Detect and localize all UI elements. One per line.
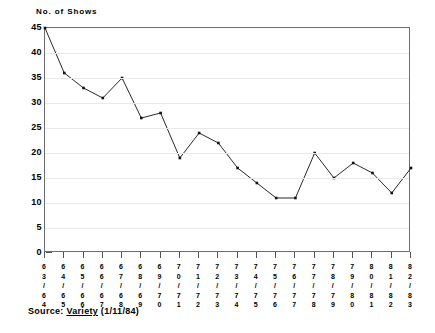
- data-point-marker: [44, 27, 47, 30]
- data-point-marker: [101, 97, 104, 100]
- y-axis-title: No. of Shows: [36, 7, 97, 16]
- data-point-marker: [159, 112, 162, 115]
- x-axis-tick-label: 73/74: [230, 262, 244, 310]
- y-axis-tick-label: 5: [16, 222, 42, 232]
- source-publication: Variety: [66, 306, 98, 316]
- x-axis-tick-label: 74/75: [249, 262, 263, 310]
- x-axis-tick-mark: [102, 252, 103, 258]
- x-axis-tick-label: 77/78: [307, 262, 321, 310]
- x-axis-tick-mark: [63, 252, 64, 258]
- x-axis-tick-label: 79/80: [345, 262, 359, 310]
- x-axis-tick-mark: [121, 252, 122, 258]
- source-note: Source: Variety (1/11/84): [28, 306, 139, 316]
- x-axis-tick-mark: [237, 252, 238, 258]
- data-point-marker: [410, 167, 413, 170]
- data-point-marker: [256, 182, 259, 185]
- y-axis-tick-label: 10: [16, 197, 42, 207]
- x-axis-tick-mark: [294, 252, 295, 258]
- x-axis-tick-label: 82/83: [403, 262, 417, 310]
- x-axis-tick-mark: [44, 252, 45, 258]
- x-axis-tick-mark: [275, 252, 276, 258]
- data-point-marker: [390, 192, 393, 195]
- x-axis-tick-label: 80/81: [364, 262, 378, 310]
- x-axis-tick-mark: [410, 252, 411, 258]
- y-axis-tick-label: 20: [16, 147, 42, 157]
- y-axis-tick-label: 25: [16, 122, 42, 132]
- x-axis-tick-mark: [217, 252, 218, 258]
- x-axis-tick-label: 75/76: [268, 262, 282, 310]
- data-point-marker: [82, 87, 85, 90]
- gridline: [45, 228, 409, 229]
- data-point-marker: [371, 172, 374, 175]
- gridline: [45, 128, 409, 129]
- data-point-marker: [236, 167, 239, 170]
- data-point-marker: [352, 162, 355, 165]
- x-axis-tick-label: 63/64: [37, 262, 51, 310]
- data-point-marker: [217, 142, 220, 145]
- x-axis-tick-mark: [371, 252, 372, 258]
- x-axis-tick-marks: [44, 252, 410, 259]
- x-axis-tick-mark: [83, 252, 84, 258]
- source-prefix: Source:: [28, 306, 64, 316]
- x-axis-tick-label: 66/67: [95, 262, 109, 310]
- x-axis-tick-mark: [256, 252, 257, 258]
- x-axis-tick-label: 76/77: [287, 262, 301, 310]
- x-axis-tick-mark: [160, 252, 161, 258]
- x-axis-tick-mark: [391, 252, 392, 258]
- y-axis-tick-label: 35: [16, 72, 42, 82]
- line-series: [45, 28, 411, 253]
- x-axis-tick-mark: [140, 252, 141, 258]
- x-axis-tick-mark: [352, 252, 353, 258]
- data-point-marker: [179, 157, 182, 160]
- y-axis-tick-label: 15: [16, 172, 42, 182]
- x-axis-tick-label: 70/71: [172, 262, 186, 310]
- source-date: (1/11/84): [101, 306, 139, 316]
- plot-area: [44, 27, 410, 252]
- data-point-marker: [294, 197, 297, 200]
- gridline: [45, 103, 409, 104]
- y-axis-tick-label: 0: [16, 247, 42, 257]
- x-axis-tick-label: 65/66: [76, 262, 90, 310]
- chart-container: No. of Shows 051015202530354045 63/6464/…: [0, 0, 435, 333]
- gridline: [45, 178, 409, 179]
- data-point-marker: [275, 197, 278, 200]
- y-axis-tick-label: 40: [16, 47, 42, 57]
- x-axis-tick-label: 71/72: [191, 262, 205, 310]
- x-axis-tick-label: 69/70: [153, 262, 167, 310]
- x-axis-tick-mark: [179, 252, 180, 258]
- data-point-marker: [198, 132, 201, 135]
- gridline: [45, 203, 409, 204]
- data-point-marker: [140, 117, 143, 120]
- data-point-marker: [63, 72, 66, 75]
- x-axis-tick-mark: [314, 252, 315, 258]
- x-axis-tick-label: 78/79: [326, 262, 340, 310]
- x-axis-tick-label: 68/69: [133, 262, 147, 310]
- x-axis-tick-labels: 63/6464/6565/6666/6767/6868/6969/7070/71…: [44, 262, 410, 304]
- y-axis-tick-labels: 051015202530354045: [8, 27, 42, 252]
- gridline: [45, 153, 409, 154]
- x-axis-tick-label: 64/65: [56, 262, 70, 310]
- y-axis-tick-label: 30: [16, 97, 42, 107]
- x-axis-tick-label: 81/82: [384, 262, 398, 310]
- x-axis-tick-mark: [333, 252, 334, 258]
- x-axis-tick-label: 67/68: [114, 262, 128, 310]
- x-axis-tick-mark: [198, 252, 199, 258]
- x-axis-tick-label: 72/73: [210, 262, 224, 310]
- y-axis-tick-label: 45: [16, 22, 42, 32]
- gridline: [45, 78, 409, 79]
- gridline: [45, 53, 409, 54]
